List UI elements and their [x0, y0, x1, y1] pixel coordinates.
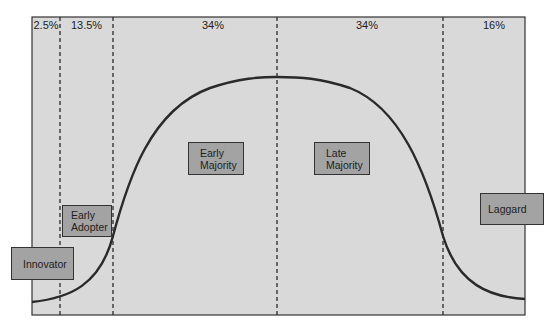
category-label-line2: Adopter: [71, 221, 108, 233]
segment-percent: 2.5%: [32, 19, 60, 31]
category-early-majority: Early Majority: [188, 142, 244, 175]
chart-canvas: [0, 0, 559, 332]
category-label: Innovator: [23, 258, 67, 270]
segment-percent: 34%: [277, 19, 457, 31]
segment-percent: 13.5%: [60, 19, 113, 31]
category-label-line2: Majority: [326, 159, 363, 171]
category-label-line1: Late: [326, 147, 346, 159]
category-label-line2: Majority: [200, 159, 237, 171]
adoption-curve-diagram: 2.5% 13.5% 34% 34% 16% Innovator Early A…: [0, 0, 559, 332]
category-early-adopter: Early Adopter: [62, 205, 112, 237]
category-laggard: Laggard: [480, 193, 544, 225]
chart-frame: [32, 17, 525, 315]
category-late-majority: Late Majority: [314, 142, 370, 175]
category-label-line1: Early: [200, 147, 224, 159]
category-innovator: Innovator: [11, 247, 74, 280]
category-label: Laggard: [488, 203, 527, 215]
segment-percent: 16%: [443, 19, 545, 31]
category-label-line1: Early: [71, 209, 95, 221]
